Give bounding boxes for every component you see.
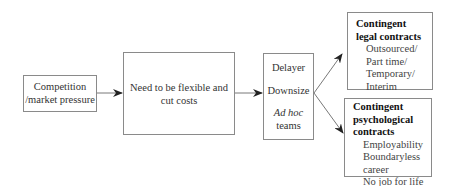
legal-title-line1: Contingent — [356, 18, 432, 31]
action-teams: teams — [264, 120, 313, 133]
node-psychological-contracts: Contingent psychological contracts Emplo… — [344, 98, 432, 177]
node-need-line2: cut costs — [124, 95, 234, 108]
psych-item: No job for life — [353, 176, 431, 186]
legal-item: Part time/ — [356, 56, 432, 69]
legal-item: Interim — [356, 81, 432, 94]
action-delayer: Delayer — [264, 62, 313, 75]
action-adhoc: Ad hoc — [264, 107, 313, 120]
legal-item: Outsourced/ — [356, 43, 432, 56]
node-legal-contracts: Contingent legal contracts Outsourced/ P… — [347, 12, 433, 90]
node-need-line1: Need to be flexible and — [124, 82, 234, 95]
arrow-actions-to-psych — [314, 93, 343, 133]
action-downsize: Downsize — [264, 85, 313, 98]
psych-title-line1: Contingent — [353, 101, 431, 114]
legal-item: Temporary/ — [356, 68, 432, 81]
psych-title-line3: contracts — [353, 126, 431, 139]
psych-title-line2: psychological — [353, 114, 431, 127]
node-competition: Competition /market pressure — [23, 75, 97, 112]
psych-item: Boundaryless — [353, 151, 431, 164]
psych-item: career — [353, 164, 431, 177]
legal-title-line2: legal contracts — [356, 31, 432, 44]
node-competition-line2: /market pressure — [25, 94, 95, 107]
psych-item: Employability — [353, 139, 431, 152]
arrow-actions-to-legal — [314, 54, 342, 93]
node-competition-line1: Competition — [34, 81, 87, 94]
node-actions: Delayer Downsize Ad hoc teams — [263, 53, 314, 140]
node-need: Need to be flexible and cut costs — [123, 52, 235, 135]
